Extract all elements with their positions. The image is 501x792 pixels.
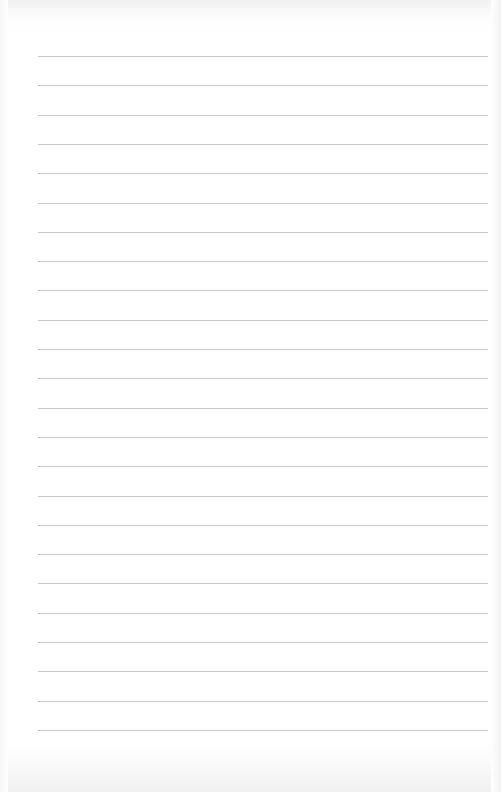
lined-paper-page bbox=[0, 0, 501, 792]
ruled-line bbox=[38, 56, 488, 57]
ruled-line bbox=[38, 525, 488, 526]
ruled-line bbox=[38, 701, 488, 702]
ruled-line bbox=[38, 642, 488, 643]
ruled-line bbox=[38, 408, 488, 409]
ruled-line bbox=[38, 378, 488, 379]
ruled-line bbox=[38, 730, 488, 731]
ruled-line bbox=[38, 437, 488, 438]
ruled-line bbox=[38, 203, 488, 204]
page-left-edge-shading bbox=[0, 0, 8, 792]
ruled-line bbox=[38, 173, 488, 174]
ruled-line bbox=[38, 85, 488, 86]
ruled-line bbox=[38, 496, 488, 497]
ruled-line bbox=[38, 320, 488, 321]
ruled-line bbox=[38, 144, 488, 145]
ruled-line bbox=[38, 583, 488, 584]
ruled-line bbox=[38, 349, 488, 350]
page-right-edge-shading bbox=[491, 0, 501, 792]
ruled-line bbox=[38, 671, 488, 672]
ruled-line bbox=[38, 232, 488, 233]
ruled-line bbox=[38, 115, 488, 116]
ruled-line bbox=[38, 466, 488, 467]
ruled-line bbox=[38, 290, 488, 291]
ruled-line bbox=[38, 554, 488, 555]
ruled-line bbox=[38, 261, 488, 262]
ruled-line bbox=[38, 613, 488, 614]
